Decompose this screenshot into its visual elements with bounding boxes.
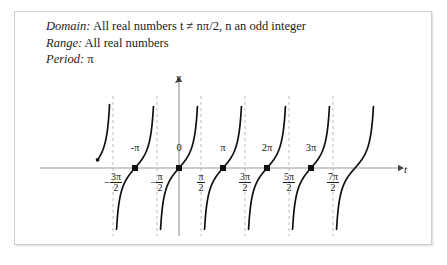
domain-label: Domain:	[46, 19, 90, 33]
figure-page: Domain: All real numbers t ≠ nπ/2, n an …	[0, 0, 447, 265]
y-axis-label: y	[176, 71, 181, 83]
fraction: 3π2	[110, 172, 122, 193]
x-tick-label: 3π2	[223, 172, 267, 193]
x-axis-label: t	[404, 163, 407, 175]
zero-point-label: 3π	[295, 142, 327, 153]
x-tick-label: −π2	[135, 172, 179, 193]
zero-point-label: π	[207, 142, 239, 153]
range-value: All real numbers	[85, 36, 169, 50]
fraction: π2	[156, 172, 163, 193]
fraction-denominator: 2	[239, 183, 251, 193]
x-tick-label: 7π2	[311, 172, 355, 193]
fraction-denominator: 2	[327, 183, 339, 193]
range-label: Range:	[46, 36, 82, 50]
property-row-range: Range: All real numbers	[46, 35, 306, 52]
fraction: 7π2	[327, 172, 339, 193]
fraction-denominator: 2	[197, 183, 204, 193]
fraction: π2	[197, 172, 204, 193]
zero-point-label: 2π	[251, 142, 283, 153]
fraction-denominator: 2	[110, 183, 122, 193]
fraction: 3π2	[239, 172, 251, 193]
period-value: π	[87, 52, 93, 66]
x-tick-label: π2	[179, 172, 223, 193]
zero-point-label: -π	[119, 142, 151, 153]
function-properties: Domain: All real numbers t ≠ nπ/2, n an …	[46, 18, 306, 68]
property-row-domain: Domain: All real numbers t ≠ nπ/2, n an …	[46, 18, 306, 35]
fraction-denominator: 2	[156, 183, 163, 193]
fraction: 5π2	[283, 172, 295, 193]
period-label: Period:	[46, 52, 84, 66]
x-tick-label: 5π2	[267, 172, 311, 193]
fraction-denominator: 2	[283, 183, 295, 193]
property-row-period: Period: π	[46, 51, 306, 68]
zero-point-label: 0	[163, 142, 195, 153]
x-tick-label: −3π2	[91, 172, 135, 193]
domain-value: All real numbers t ≠ nπ/2, n an odd inte…	[93, 19, 306, 33]
